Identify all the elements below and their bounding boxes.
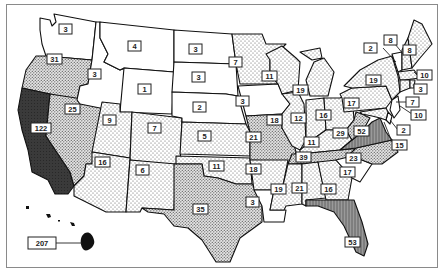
svg-text:3: 3 (250, 198, 254, 207)
state-FL[interactable] (306, 200, 368, 256)
state-WA[interactable] (40, 14, 96, 60)
label-SD: 3 (192, 72, 205, 82)
svg-text:6: 6 (140, 166, 144, 175)
label-WA: 3 (59, 24, 72, 34)
svg-text:3: 3 (240, 97, 244, 106)
label-HI: 207 (28, 237, 56, 249)
label-FL: 53 (345, 237, 360, 247)
svg-text:122: 122 (35, 124, 48, 133)
label-OK: 11 (209, 161, 224, 171)
state-ND[interactable] (174, 30, 236, 64)
svg-text:11: 11 (308, 138, 316, 147)
label-CA: 122 (31, 123, 51, 133)
label-NC: 23 (346, 153, 361, 163)
label-NM: 6 (136, 165, 149, 175)
svg-text:16: 16 (98, 158, 106, 167)
label-MT: 4 (128, 41, 141, 51)
svg-text:3: 3 (418, 85, 422, 94)
label-DE: 2 (397, 125, 410, 135)
label-NH: 8 (384, 35, 397, 45)
svg-text:52: 52 (357, 127, 365, 136)
svg-text:35: 35 (196, 205, 204, 214)
svg-text:5: 5 (202, 132, 206, 141)
state-CO[interactable] (130, 112, 182, 166)
svg-text:53: 53 (348, 238, 356, 247)
svg-text:17: 17 (343, 168, 351, 177)
state-CT[interactable] (400, 80, 410, 92)
label-TN: 39 (296, 152, 311, 162)
label-UT: 9 (103, 115, 116, 125)
svg-text:21: 21 (295, 184, 303, 193)
svg-text:29: 29 (336, 129, 344, 138)
label-IN: 12 (291, 113, 306, 123)
label-KS: 5 (198, 131, 211, 141)
label-VA: 52 (354, 126, 369, 136)
label-MA: 10 (417, 70, 432, 80)
svg-text:19: 19 (274, 185, 282, 194)
label-ID: 3 (88, 69, 101, 79)
state-KS[interactable] (180, 122, 250, 156)
svg-text:3: 3 (92, 70, 96, 79)
svg-text:3: 3 (63, 25, 67, 34)
svg-text:15: 15 (395, 141, 403, 150)
svg-text:9: 9 (107, 116, 111, 125)
label-IL: 18 (267, 115, 282, 125)
svg-text:8: 8 (407, 46, 411, 55)
label-NE: 2 (193, 102, 206, 112)
label-AR: 18 (246, 164, 261, 174)
svg-text:10: 10 (414, 111, 422, 120)
state-ME[interactable] (408, 20, 432, 68)
label-MO: 21 (246, 132, 261, 142)
label-WY: 1 (138, 84, 151, 94)
state-NE[interactable] (172, 92, 246, 124)
svg-text:18: 18 (270, 116, 278, 125)
label-ND: 3 (189, 44, 202, 54)
label-AZ: 16 (95, 157, 110, 167)
svg-text:207: 207 (36, 239, 49, 248)
state-NM[interactable] (126, 160, 176, 212)
svg-text:17: 17 (347, 99, 355, 108)
label-IA: 3 (236, 96, 249, 106)
svg-text:8: 8 (388, 36, 392, 45)
label-WV: 29 (333, 128, 348, 138)
svg-text:19: 19 (369, 76, 377, 85)
label-MD: 15 (392, 140, 407, 150)
svg-text:12: 12 (294, 114, 302, 123)
label-NJ: 10 (411, 110, 426, 120)
label-MS: 19 (271, 184, 286, 194)
label-ME: 8 (403, 45, 416, 55)
label-CT: 7 (406, 97, 419, 107)
svg-text:3: 3 (193, 45, 197, 54)
label-TX: 35 (193, 204, 208, 214)
label-WI: 11 (262, 71, 277, 81)
svg-text:18: 18 (249, 165, 257, 174)
svg-text:16: 16 (319, 111, 327, 120)
label-SC: 17 (340, 167, 355, 177)
svg-text:11: 11 (266, 72, 274, 81)
label-GA: 16 (321, 184, 336, 194)
svg-text:23: 23 (349, 154, 357, 163)
svg-text:10: 10 (420, 71, 428, 80)
label-KY: 11 (304, 137, 319, 147)
svg-text:2: 2 (368, 44, 372, 53)
svg-text:2: 2 (197, 103, 201, 112)
label-NV: 25 (65, 104, 80, 114)
label-LA: 3 (246, 197, 259, 207)
label-PA: 17 (344, 98, 359, 108)
label-MI: 19 (293, 85, 308, 95)
svg-text:16: 16 (324, 185, 332, 194)
svg-text:1: 1 (142, 85, 146, 94)
label-RI: 3 (414, 84, 427, 94)
us-map: 3 31 122 25 3 4 1 9 7 16 6 3 3 2 5 11 35… (0, 0, 445, 274)
svg-text:11: 11 (213, 162, 221, 171)
svg-text:7: 7 (152, 124, 156, 133)
label-MN: 7 (229, 57, 242, 67)
svg-text:3: 3 (196, 73, 200, 82)
svg-text:19: 19 (296, 86, 304, 95)
svg-text:2: 2 (401, 126, 405, 135)
svg-text:21: 21 (249, 133, 257, 142)
label-NY: 19 (366, 75, 381, 85)
label-CO: 7 (148, 123, 161, 133)
label-OH: 16 (316, 110, 331, 120)
svg-text:31: 31 (50, 55, 58, 64)
